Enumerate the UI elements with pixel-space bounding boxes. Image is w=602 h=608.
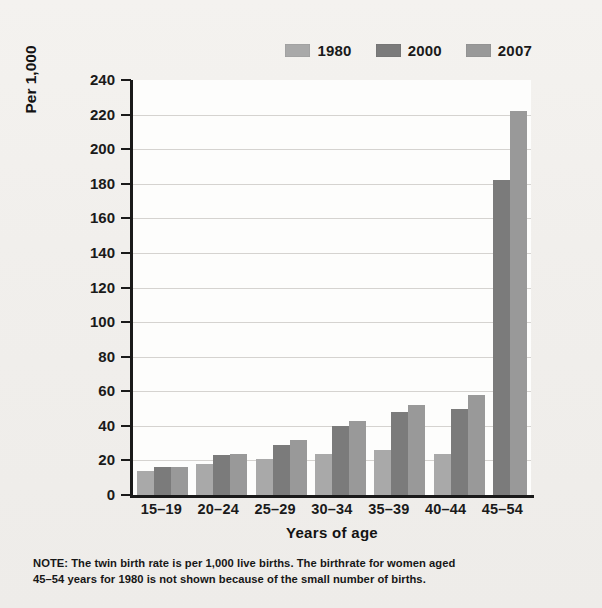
legend-label-1980: 1980 [317, 42, 351, 59]
legend-swatch-2000 [376, 44, 401, 57]
legend-swatch-2007 [466, 44, 491, 57]
y-tick-label-240: 240 [90, 71, 115, 88]
bar-2007-35–39 [408, 405, 425, 495]
bar-2007-30–34 [349, 421, 366, 495]
legend-swatch-1980 [285, 44, 310, 57]
bar-2000-35–39 [391, 412, 408, 495]
x-tick-label-20–24: 20–24 [198, 501, 239, 517]
x-tick-label-30–34: 30–34 [311, 501, 352, 517]
bar-2007-25–29 [290, 440, 307, 495]
bar-group-25–29 [256, 80, 307, 495]
plot-wrapper: 240220200180160140120100806040200 [133, 80, 531, 495]
y-tick-0 [121, 494, 131, 496]
x-tick-label-35–39: 35–39 [368, 501, 409, 517]
x-tick-label-45–54: 45–54 [482, 501, 523, 517]
y-tick-160 [121, 217, 131, 219]
bar-group-20–24 [196, 80, 247, 495]
y-tick-40 [121, 425, 131, 427]
x-tick-label-15–19: 15–19 [141, 501, 182, 517]
y-tick-140 [121, 252, 131, 254]
bar-group-30–34 [315, 80, 366, 495]
bar-2000-45–54 [493, 180, 510, 495]
y-tick-60 [121, 390, 131, 392]
chart-note-line-2: 45–54 years for 1980 is not shown becaus… [33, 572, 503, 588]
chart-note: NOTE: The twin birth rate is per 1,000 l… [33, 556, 503, 588]
y-axis-title: Per 1,000 [22, 0, 40, 287]
y-tick-label-200: 200 [90, 140, 115, 157]
y-tick-20 [121, 459, 131, 461]
chart-legend: 198020002007 [0, 42, 602, 59]
x-axis-line [130, 495, 534, 498]
chart-page: 198020002007 Per 1,000 24022020018016014… [0, 0, 602, 608]
y-tick-label-180: 180 [90, 175, 115, 192]
legend-item-1980: 1980 [285, 42, 351, 59]
y-tick-80 [121, 356, 131, 358]
bar-2000-40–44 [451, 409, 468, 495]
bar-1980-20–24 [196, 464, 213, 495]
y-tick-200 [121, 148, 131, 150]
bar-groups [133, 80, 531, 495]
legend-label-2007: 2007 [498, 42, 532, 59]
bar-1980-25–29 [256, 459, 273, 495]
y-tick-label-140: 140 [90, 244, 115, 261]
bar-1980-15–19 [137, 471, 154, 495]
bar-2007-15–19 [171, 467, 188, 495]
y-tick-label-100: 100 [90, 313, 115, 330]
y-tick-label-160: 160 [90, 209, 115, 226]
legend-label-2000: 2000 [408, 42, 442, 59]
bar-group-40–44 [434, 80, 485, 495]
bar-1980-35–39 [374, 450, 391, 495]
y-tick-label-0: 0 [107, 486, 115, 503]
bar-group-35–39 [374, 80, 425, 495]
x-tick-label-40–44: 40–44 [425, 501, 466, 517]
y-tick-label-40: 40 [98, 417, 115, 434]
bar-2007-40–44 [468, 395, 485, 495]
y-tick-120 [121, 287, 131, 289]
y-tick-180 [121, 183, 131, 185]
y-tick-label-80: 80 [98, 348, 115, 365]
y-tick-label-120: 120 [90, 279, 115, 296]
bar-2000-15–19 [154, 467, 171, 495]
bar-2000-20–24 [213, 455, 230, 495]
legend-item-2000: 2000 [376, 42, 442, 59]
y-tick-240 [121, 79, 131, 81]
bar-1980-30–34 [315, 454, 332, 496]
bar-group-15–19 [137, 80, 188, 495]
x-axis-tick-labels: 15–1920–2425–2930–3435–3940–4445–54 [133, 501, 531, 517]
x-tick-label-25–29: 25–29 [254, 501, 295, 517]
bar-group-45–54 [493, 80, 527, 495]
y-tick-100 [121, 321, 131, 323]
y-tick-220 [121, 114, 131, 116]
chart-note-line-1: NOTE: The twin birth rate is per 1,000 l… [33, 556, 503, 572]
x-axis-title: Years of age [133, 524, 531, 541]
y-tick-label-20: 20 [98, 452, 115, 469]
bar-1980-40–44 [434, 454, 451, 496]
y-tick-label-220: 220 [90, 106, 115, 123]
bar-2000-30–34 [332, 426, 349, 495]
bar-2000-25–29 [273, 445, 290, 495]
legend-item-2007: 2007 [466, 42, 532, 59]
bar-2007-45–54 [510, 111, 527, 495]
y-tick-label-60: 60 [98, 382, 115, 399]
bar-2007-20–24 [230, 454, 247, 496]
